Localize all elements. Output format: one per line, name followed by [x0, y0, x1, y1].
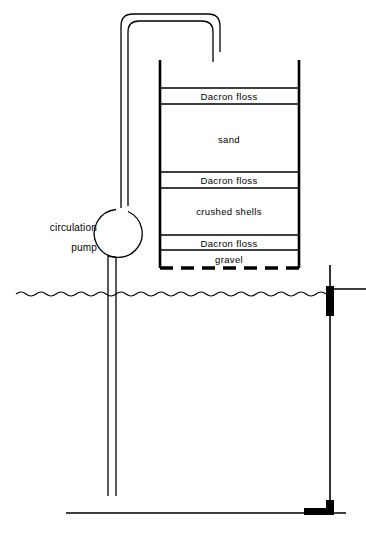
water-surface-wave [16, 292, 326, 296]
tank-corner-block-horizontal [304, 508, 334, 515]
pump-label-line2: pump [71, 242, 97, 253]
pump-housing-upper-arc [94, 210, 142, 258]
aquarium-tank [66, 265, 366, 515]
layer-label-crushed-shells: crushed shells [196, 206, 262, 217]
tank-rim-block [326, 286, 334, 316]
diagram-root: Dacron floss sand Dacron floss crushed s… [0, 0, 366, 544]
filter-system-diagram: Dacron floss sand Dacron floss crushed s… [0, 0, 366, 544]
circulation-pump: circulation pump [50, 210, 142, 258]
filter-column: Dacron floss sand Dacron floss crushed s… [160, 60, 299, 268]
layer-label-dacron-floss-bottom: Dacron floss [201, 238, 258, 249]
layer-label-sand: sand [218, 134, 240, 145]
layer-label-dacron-floss-middle: Dacron floss [201, 175, 258, 186]
layer-label-gravel: gravel [215, 254, 243, 265]
water-line [16, 292, 326, 296]
pump-label-line1: circulation [50, 222, 97, 233]
layer-label-dacron-floss-top: Dacron floss [201, 91, 258, 102]
intake-pipe [108, 255, 116, 496]
